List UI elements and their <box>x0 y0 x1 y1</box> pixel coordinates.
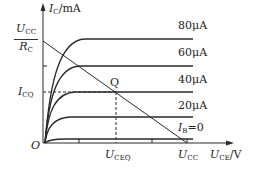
x-axis-arrow-icon <box>226 141 234 146</box>
x-axis-label: UCE/V <box>210 149 241 164</box>
curve-label-0uA: IB=0 <box>178 122 204 137</box>
origin-label: O <box>31 140 40 152</box>
ucc-label: UCC <box>178 149 198 164</box>
curve-label-80uA: 80μA <box>178 20 207 32</box>
uceq-label: UCEQ <box>105 149 131 164</box>
curve-0uA <box>45 139 193 143</box>
curve-80uA <box>45 39 193 143</box>
ucc-over-rc-label: UCC RC <box>14 23 38 56</box>
curve-label-40uA: 40μA <box>178 74 207 86</box>
curve-label-60uA: 60μA <box>178 47 207 59</box>
output-curves <box>45 39 193 143</box>
y-axis-label: IC/mA <box>49 3 81 18</box>
curve-label-20uA: 20μA <box>178 100 207 112</box>
q-point-label: Q <box>110 77 119 89</box>
diagram: IC/mA UCC RC ICQ O Q 80μA 60μA 40μA 20μA… <box>0 0 258 175</box>
y-axis-arrow-icon <box>41 3 46 11</box>
icq-label: ICQ <box>18 86 33 101</box>
